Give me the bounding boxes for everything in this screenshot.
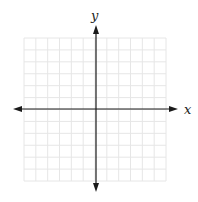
- x-axis-left-arrow-icon: [13, 106, 22, 112]
- coordinate-plane: x y: [0, 0, 198, 202]
- x-axis-label: x: [184, 102, 192, 117]
- y-axis-up-arrow-icon: [93, 25, 99, 34]
- x-axis-right-arrow-icon: [169, 106, 178, 112]
- y-axis-label: y: [90, 8, 99, 23]
- y-axis-down-arrow-icon: [93, 183, 99, 192]
